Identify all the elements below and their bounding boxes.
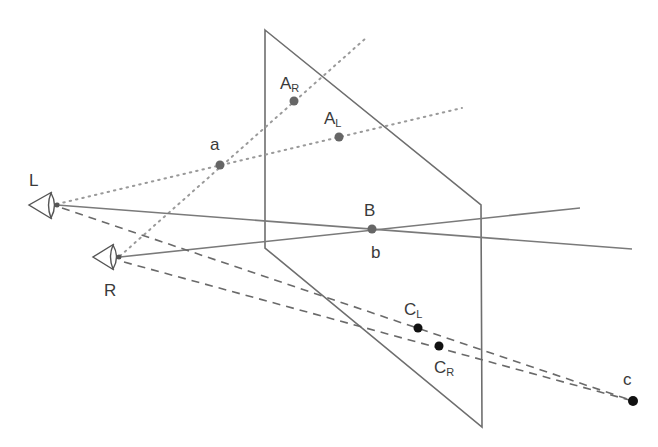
point-c	[628, 396, 638, 406]
point-AL	[335, 133, 344, 142]
label-AR: AR	[280, 74, 299, 94]
point-a	[216, 161, 225, 170]
dotted-line-left-to-AL	[57, 108, 462, 204]
point-CR	[435, 342, 444, 351]
point-AR	[290, 97, 299, 106]
label-b: b	[371, 243, 380, 262]
label-L: L	[29, 171, 38, 190]
stereo-diagram: L R AR AL a B b CL CR c	[0, 0, 658, 447]
label-c: c	[623, 370, 632, 389]
point-B	[368, 225, 377, 234]
label-R: R	[104, 281, 116, 300]
dashed-line-right-to-c	[124, 262, 633, 401]
left-eye-icon	[29, 192, 59, 219]
label-AL: AL	[324, 109, 341, 129]
label-a: a	[210, 135, 220, 154]
label-B: B	[364, 201, 375, 220]
dotted-line-right-to-AR	[120, 38, 366, 256]
right-eye-icon	[93, 244, 121, 270]
label-CR: CR	[434, 358, 454, 378]
point-CL	[414, 324, 423, 333]
label-CL: CL	[404, 300, 422, 320]
dashed-line-left-to-c	[62, 208, 633, 401]
